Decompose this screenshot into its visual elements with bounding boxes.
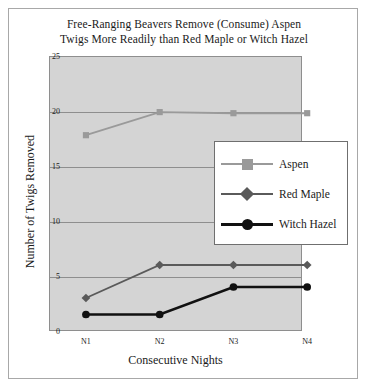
series-red-maple xyxy=(82,261,312,303)
y-tick-label: 0 xyxy=(36,327,60,336)
legend-label: Aspen xyxy=(275,158,308,170)
data-point xyxy=(83,132,89,138)
chart-figure: Free-Ranging Beavers Remove (Consume) As… xyxy=(8,8,358,379)
data-point xyxy=(304,110,310,116)
x-tick-label: N3 xyxy=(213,337,253,346)
legend-item-witch-hazel[interactable]: Witch Hazel xyxy=(215,210,349,238)
data-point xyxy=(82,311,90,319)
chart-title-line-1: Free-Ranging Beavers Remove (Consume) As… xyxy=(9,17,358,32)
legend-swatch xyxy=(219,213,275,235)
legend-marker-diamond xyxy=(240,187,254,201)
legend-label: Red Maple xyxy=(275,188,330,200)
y-tick-label: 15 xyxy=(36,162,60,171)
data-point xyxy=(156,311,164,319)
data-point xyxy=(229,261,238,270)
chart-legend: AspenRed MapleWitch Hazel xyxy=(214,141,348,245)
series-line xyxy=(86,112,307,135)
series-line xyxy=(86,287,307,315)
legend-marker-square xyxy=(242,159,253,170)
legend-item-aspen[interactable]: Aspen xyxy=(215,150,349,178)
data-point xyxy=(303,261,312,270)
series-aspen xyxy=(83,109,310,138)
data-point xyxy=(303,283,311,291)
x-tick-label: N1 xyxy=(66,337,106,346)
series-witch-hazel xyxy=(82,283,311,318)
data-point xyxy=(82,294,91,303)
legend-swatch xyxy=(219,183,275,205)
data-point xyxy=(230,110,236,116)
y-tick-label: 20 xyxy=(36,107,60,116)
legend-marker-circle xyxy=(242,219,253,230)
x-tick-label: N2 xyxy=(140,337,180,346)
series-line xyxy=(86,265,307,298)
y-tick-label: 5 xyxy=(36,272,60,281)
x-tick-label: N4 xyxy=(287,337,327,346)
x-axis-label: Consecutive Nights xyxy=(49,353,302,368)
data-point xyxy=(155,261,164,270)
legend-swatch xyxy=(219,153,275,175)
chart-title-line-2: Twigs More Readily than Red Maple or Wit… xyxy=(9,32,358,47)
y-tick-label: 25 xyxy=(36,52,60,61)
chart-title: Free-Ranging Beavers Remove (Consume) As… xyxy=(9,17,358,47)
data-point xyxy=(230,283,238,291)
legend-item-red-maple[interactable]: Red Maple xyxy=(215,180,349,208)
data-point xyxy=(157,109,163,115)
y-tick-label: 10 xyxy=(36,217,60,226)
legend-label: Witch Hazel xyxy=(275,218,336,230)
